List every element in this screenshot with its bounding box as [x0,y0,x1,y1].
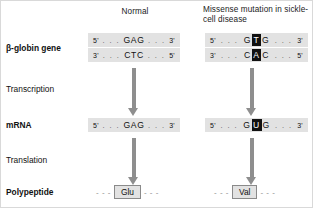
strand-end-3prime: 3' [297,37,303,44]
strand-end-5prime: 5' [297,52,303,59]
strand-dots-left: . . . [216,121,243,130]
arrow-shaft [250,138,254,178]
mutant-dna-top-bases: G T G [243,34,270,46]
mutant-mrna-strand: 5' . . . G U G . . . 3' [205,118,308,132]
strand-dots-left: . . . [99,121,124,130]
row-label-beta-globin-gene: β-globin gene [6,43,61,53]
transcription-arrow-mutant [246,68,257,109]
base-left: G [243,120,251,130]
strand-end-3prime: 3' [169,37,175,44]
normal-mrna-bases: GAG [124,120,145,130]
arrow-head [128,108,138,116]
peptide-chain-dash-right: - - - [260,188,275,197]
strand-dots-left: . . . [216,51,244,60]
peptide-chain-dash-left: - - - [214,188,229,197]
translation-arrow-mutant [246,138,257,178]
strand-dots-right: . . . [270,121,297,130]
strand-dots-right: . . . [144,121,169,130]
normal-dna-top-bases: GAG [124,35,145,45]
strand-dots-right: . . . [270,51,298,60]
amino-acid-glu: Glu [114,185,141,199]
mutated-base-highlight-mrna: U [252,119,262,131]
base-right: C [262,50,270,60]
amino-acid-val: Val [232,185,257,199]
transcription-arrow-normal [128,68,139,109]
column-header-normal: Normal [92,7,178,17]
mutated-base-highlight-dna-bottom: A [252,49,262,61]
strand-dots-right: . . . [144,51,169,60]
strand-dots-left: . . . [216,36,243,45]
figure-frame [0,0,313,208]
translation-arrow-normal [128,138,139,178]
column-header-mutant: Missense mutation in sickle-cell disease [203,5,311,25]
row-label-translation: Translation [6,155,47,165]
mutant-dna-strand-bottom: 3' . . . C A C . . . 5' [205,48,308,62]
mutated-base-highlight-dna-top: T [252,34,261,46]
normal-mrna-strand: 5' . . . GAG . . . 3' [88,118,180,132]
strand-end-3prime: 3' [169,122,175,129]
mutant-dna-strand-top: 5' . . . G T G . . . 3' [205,33,308,47]
arrow-head [128,177,138,185]
normal-dna-bottom-bases: CTC [124,50,143,60]
row-label-polypeptide: Polypeptide [6,187,53,197]
arrow-shaft [132,138,136,178]
normal-dna-strand-top: 5' . . . GAG . . . 3' [88,33,180,47]
row-label-mrna: mRNA [6,120,32,130]
base-right: G [261,35,269,45]
row-label-transcription: Transcription [6,84,54,94]
mutant-mrna-bases: G U G [243,119,271,131]
base-right: G [262,120,270,130]
strand-end-5prime: 5' [169,52,175,59]
arrow-head [246,177,256,185]
base-left: C [243,50,251,60]
strand-dots-right: . . . [270,36,297,45]
strand-dots-left: . . . [99,51,124,60]
strand-end-3prime: 3' [297,122,303,129]
arrow-shaft [250,68,254,109]
base-left: G [243,35,251,45]
peptide-chain-dash-left: - - - [96,188,111,197]
strand-dots-right: . . . [144,36,169,45]
mutant-polypeptide-residue: - - - Val - - - [214,185,275,199]
peptide-chain-dash-right: - - - [144,188,159,197]
normal-dna-strand-bottom: 3' . . . CTC . . . 5' [88,48,180,62]
normal-polypeptide-residue: - - - Glu - - - [96,185,159,199]
mutant-dna-bottom-bases: C A C [243,49,269,61]
arrow-head [246,108,256,116]
arrow-shaft [132,68,136,109]
strand-dots-left: . . . [99,36,124,45]
